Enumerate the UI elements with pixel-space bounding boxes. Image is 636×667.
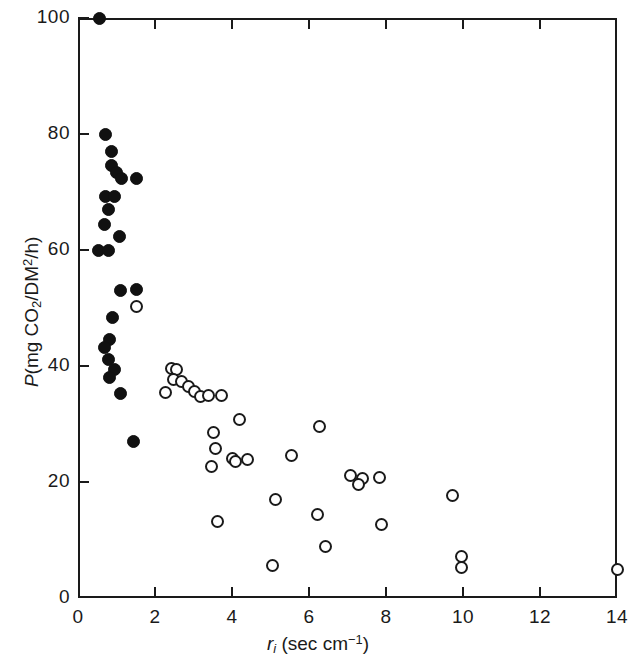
data-point: [113, 230, 126, 243]
data-point: [373, 471, 386, 484]
x-tick-2: [154, 587, 156, 598]
data-point: [215, 389, 228, 402]
x-tick-label-10: 10: [443, 606, 483, 628]
x-tick-top-2: [154, 18, 156, 29]
data-point: [352, 478, 365, 491]
x-tick-8: [385, 587, 387, 598]
plot-area: [78, 18, 617, 598]
data-point: [205, 460, 218, 473]
data-point: [159, 386, 172, 399]
y-tick-100: [78, 17, 89, 19]
data-point: [108, 190, 121, 203]
x-tick-top-6: [308, 18, 310, 29]
data-point: [611, 563, 624, 576]
x-tick-label-12: 12: [520, 606, 560, 628]
data-point: [106, 311, 119, 324]
x-axis-title: ri (sec cm−1): [0, 632, 636, 656]
data-point: [127, 435, 140, 448]
x-tick-label-14: 14: [597, 606, 636, 628]
data-point: [375, 518, 388, 531]
data-point: [130, 283, 143, 296]
y-tick-label-0: 0: [18, 586, 70, 608]
data-point: [455, 561, 468, 574]
x-tick-top-12: [539, 18, 541, 29]
x-tick-top-4: [231, 18, 233, 29]
x-tick-6: [308, 587, 310, 598]
x-tick-top-10: [462, 18, 464, 29]
y-tick-80: [78, 133, 89, 135]
scatter-plot-figure: 02468101214 020406080100 ri (sec cm−1) P…: [0, 0, 636, 667]
data-point: [115, 172, 128, 185]
x-tick-12: [539, 587, 541, 598]
data-point: [241, 453, 254, 466]
x-tick-label-0: 0: [58, 606, 98, 628]
data-point: [266, 559, 279, 572]
y-axis-title: P(mg CO2/DM2/h): [20, 132, 44, 492]
data-point: [233, 413, 246, 426]
data-point: [130, 172, 143, 185]
data-point: [102, 203, 115, 216]
y-tick-label-100: 100: [18, 6, 70, 28]
x-tick-top-8: [385, 18, 387, 29]
data-point: [98, 341, 111, 354]
data-point: [114, 284, 127, 297]
data-point: [446, 489, 459, 502]
x-tick-10: [462, 587, 464, 598]
data-point: [319, 540, 332, 553]
x-tick-label-2: 2: [135, 606, 175, 628]
x-tick-label-4: 4: [212, 606, 252, 628]
data-point: [285, 449, 298, 462]
y-tick-20: [78, 481, 89, 483]
data-point: [211, 515, 224, 528]
data-point: [311, 508, 324, 521]
data-point: [93, 12, 106, 25]
y-tick-60: [78, 249, 89, 251]
data-point: [313, 420, 326, 433]
data-point: [102, 244, 115, 257]
data-point: [209, 442, 222, 455]
data-point: [103, 371, 116, 384]
data-point: [207, 426, 220, 439]
data-point: [202, 389, 215, 402]
data-point: [114, 387, 127, 400]
y-tick-40: [78, 365, 89, 367]
data-point: [269, 493, 282, 506]
x-tick-4: [231, 587, 233, 598]
data-point: [98, 218, 111, 231]
data-point: [105, 145, 118, 158]
data-point: [130, 300, 143, 313]
x-tick-label-8: 8: [366, 606, 406, 628]
data-point: [99, 128, 112, 141]
x-tick-label-6: 6: [289, 606, 329, 628]
